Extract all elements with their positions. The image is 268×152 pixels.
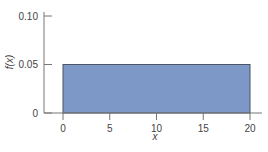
density-bar-0: [63, 65, 250, 114]
x-tick-label: 15: [198, 123, 210, 134]
x-tick-label: 20: [244, 123, 256, 134]
y-ticks: 00.050.10: [19, 11, 52, 119]
x-ticks: 05101520: [60, 113, 256, 134]
bars-layer: [63, 65, 250, 114]
x-tick-label: 0: [60, 123, 66, 134]
y-tick-label: 0.05: [19, 59, 39, 70]
x-axis-label: x: [152, 131, 159, 142]
y-tick-label: 0.10: [19, 11, 39, 22]
uniform-density-chart: 00.050.10 05101520 x f(x): [0, 0, 268, 152]
y-axis-label: f(x): [4, 55, 15, 69]
x-tick-label: 5: [107, 123, 113, 134]
y-tick-label: 0: [32, 108, 38, 119]
